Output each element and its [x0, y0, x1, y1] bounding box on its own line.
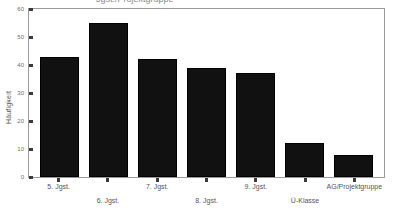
bar	[334, 155, 373, 177]
y-tick-label: 40	[17, 62, 29, 68]
bar-slot	[35, 9, 84, 177]
x-tick-mark	[57, 178, 60, 182]
x-axis-label: AG/Projektgruppe	[327, 183, 383, 190]
bar-slot	[84, 9, 133, 177]
x-tick-mark	[254, 178, 257, 182]
x-axis-label: 7. Jgst.	[146, 183, 169, 190]
chart-title-cutoff: Jgst./Projektgruppe	[96, 0, 296, 4]
bar-slot	[280, 9, 329, 177]
x-axis-label: 9. Jgst.	[244, 183, 267, 190]
bar-series	[29, 9, 384, 177]
bar-slot	[329, 9, 378, 177]
bar	[40, 57, 79, 177]
bar	[89, 23, 128, 177]
x-axis-label: 5. Jgst.	[47, 183, 70, 190]
x-axis-label: 6. Jgst.	[97, 197, 120, 204]
x-tick-mark	[106, 178, 109, 182]
x-tick-mark	[156, 178, 159, 182]
bar-chart: Jgst./Projektgruppe Häufigkeit 010203040…	[0, 0, 396, 214]
x-tick-mark	[304, 178, 307, 182]
x-tick-mark	[205, 178, 208, 182]
bar-slot	[231, 9, 280, 177]
x-axis-labels: 5. Jgst.6. Jgst.7. Jgst.8. Jgst.9. Jgst.…	[28, 183, 385, 214]
bar	[187, 68, 226, 177]
y-tick-label: 10	[17, 146, 29, 152]
x-axis-label: 8. Jgst.	[195, 197, 218, 204]
plot-area: 0102030405060	[28, 8, 385, 178]
x-tick-mark	[353, 178, 356, 182]
bar	[138, 59, 177, 177]
bar	[285, 143, 324, 177]
y-tick-label: 60	[17, 6, 29, 12]
y-tick-label: 30	[17, 90, 29, 96]
bar-slot	[133, 9, 182, 177]
bar-slot	[182, 9, 231, 177]
x-axis-label: Ü-Klasse	[291, 197, 319, 204]
bar	[236, 73, 275, 177]
y-tick-label: 50	[17, 34, 29, 40]
y-axis-title: Häufigkeit	[5, 72, 12, 144]
y-tick-label: 20	[17, 118, 29, 124]
